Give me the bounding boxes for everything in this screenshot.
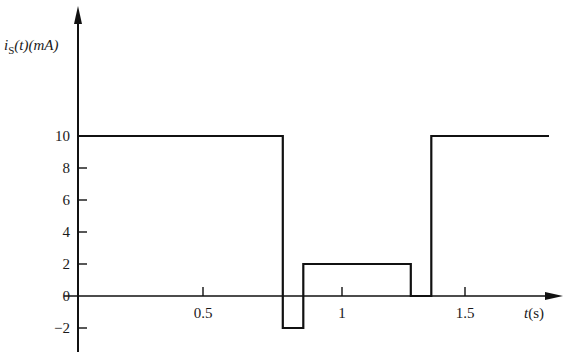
step-waveform-chart: −202468100.511.5iS(t)(mA)t(s) <box>0 0 568 355</box>
y-axis-title: iS(t)(mA) <box>4 37 58 56</box>
x-tick-label: 0.5 <box>194 305 213 321</box>
axes <box>64 6 563 352</box>
y-tick-label: 0 <box>63 288 71 304</box>
x-tick-label: 1.5 <box>456 305 475 321</box>
ticks <box>78 136 465 328</box>
waveform <box>78 136 549 328</box>
y-tick-label: 2 <box>63 256 71 272</box>
y-tick-label: 10 <box>55 128 70 144</box>
waveform-line <box>78 136 549 328</box>
y-tick-label: 6 <box>63 192 71 208</box>
y-tick-label: −2 <box>54 320 70 336</box>
x-axis-arrow-icon <box>545 292 563 300</box>
x-tick-label: 1 <box>338 305 346 321</box>
y-tick-label: 8 <box>63 160 71 176</box>
labels: −202468100.511.5iS(t)(mA)t(s) <box>4 37 544 336</box>
x-axis-title: t(s) <box>524 305 544 322</box>
y-axis-arrow-icon <box>74 6 82 24</box>
y-tick-label: 4 <box>63 224 71 240</box>
